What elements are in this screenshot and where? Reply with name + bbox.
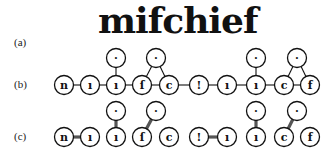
graph-row_c: nııſc!ııcf···· — [55, 102, 320, 147]
svg-text:ı: ı — [114, 131, 118, 144]
character-node: ſ — [133, 128, 152, 147]
dot-node: · — [147, 102, 166, 121]
dot-node: · — [288, 49, 307, 68]
dot-node: · — [247, 49, 266, 68]
svg-text:!: ! — [197, 131, 202, 144]
character-node: ! — [190, 128, 209, 147]
svg-text:ı: ı — [225, 131, 229, 144]
character-node: c — [275, 76, 294, 95]
character-node: ! — [190, 76, 209, 95]
svg-text:·: · — [154, 105, 158, 118]
svg-text:n: n — [60, 79, 68, 92]
character-node: f — [301, 76, 320, 95]
character-node: n — [55, 76, 74, 95]
svg-text:·: · — [254, 105, 258, 118]
dot-node: · — [247, 102, 266, 121]
svg-text:ı: ı — [254, 131, 258, 144]
character-node: ı — [218, 128, 237, 147]
svg-text:ı: ı — [254, 79, 258, 92]
character-node: ı — [107, 128, 126, 147]
dot-node: · — [107, 102, 126, 121]
svg-text:!: ! — [197, 79, 202, 92]
svg-text:n: n — [60, 131, 68, 144]
character-node: f — [301, 128, 320, 147]
dot-node: · — [107, 49, 126, 68]
svg-text:ı: ı — [88, 131, 92, 144]
character-node: c — [275, 128, 294, 147]
character-node: ı — [107, 76, 126, 95]
svg-text:c: c — [281, 131, 288, 144]
dot-node: · — [147, 49, 166, 68]
svg-text:·: · — [114, 105, 118, 118]
character-node: ı — [81, 128, 100, 147]
svg-text:c: c — [281, 79, 288, 92]
character-node: n — [55, 128, 74, 147]
svg-text:ı: ı — [225, 79, 229, 92]
character-node: c — [160, 128, 179, 147]
svg-text:ı: ı — [114, 79, 118, 92]
svg-text:·: · — [295, 105, 299, 118]
character-node: ı — [218, 76, 237, 95]
svg-text:·: · — [254, 52, 258, 65]
character-graph-diagram: nııſc!ııcf····nııſc!ııcf···· — [0, 0, 323, 158]
svg-text:·: · — [114, 52, 118, 65]
svg-text:·: · — [295, 52, 299, 65]
svg-text:c: c — [166, 131, 173, 144]
character-node: ı — [247, 76, 266, 95]
graph-row_b: nııſc!ııcf···· — [55, 49, 320, 95]
svg-text:·: · — [154, 52, 158, 65]
character-node: ı — [247, 128, 266, 147]
dot-node: · — [288, 102, 307, 121]
character-node: ſ — [133, 76, 152, 95]
character-node: c — [160, 76, 179, 95]
character-node: ı — [81, 76, 100, 95]
svg-text:c: c — [166, 79, 173, 92]
svg-text:ı: ı — [88, 79, 92, 92]
